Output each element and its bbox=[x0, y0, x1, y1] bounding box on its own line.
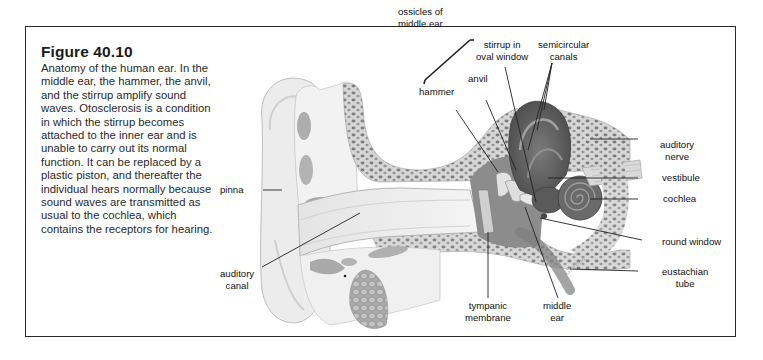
label-line: canal bbox=[220, 280, 254, 292]
label-anvil: anvil bbox=[468, 73, 488, 85]
label-eustachian-tube: eustachian tube bbox=[662, 266, 708, 289]
label-line: ossicles of bbox=[398, 6, 443, 18]
label-line: stirrup in bbox=[476, 39, 528, 51]
label-semicircular-canals: semicircular canals bbox=[538, 39, 589, 62]
label-line: oval window bbox=[476, 51, 528, 63]
label-auditory-nerve: auditory nerve bbox=[660, 139, 694, 162]
label-auditory-canal: auditory canal bbox=[220, 268, 254, 291]
label-pinna: pinna bbox=[220, 184, 243, 196]
label-round-window: round window bbox=[662, 236, 721, 248]
label-vestibule: vestibule bbox=[662, 172, 700, 184]
ossicles-bracket-line bbox=[425, 40, 470, 80]
label-line: ear bbox=[543, 312, 571, 324]
label-hammer: hammer bbox=[419, 86, 454, 98]
label-line: canals bbox=[538, 51, 589, 63]
label-line: membrane bbox=[465, 312, 511, 324]
label-line: tube bbox=[662, 278, 708, 290]
label-line: nerve bbox=[660, 151, 694, 163]
label-ossicles-of-middle-ear: ossicles of middle ear bbox=[398, 6, 443, 29]
lower-tissue bbox=[300, 244, 440, 329]
label-line: tympanic bbox=[465, 300, 511, 312]
label-line: eustachian bbox=[662, 266, 708, 278]
label-line: semicircular bbox=[538, 39, 589, 51]
label-stirrup-in-oval-window: stirrup in oval window bbox=[476, 39, 528, 62]
label-tympanic-membrane: tympanic membrane bbox=[465, 300, 511, 323]
label-line: auditory bbox=[220, 268, 254, 280]
label-cochlea: cochlea bbox=[663, 193, 696, 205]
label-line: middle ear bbox=[398, 18, 443, 30]
ear-anatomy-illustration: Gierhan bbox=[0, 0, 763, 360]
label-line: auditory bbox=[660, 139, 694, 151]
label-line: middle bbox=[543, 300, 571, 312]
label-middle-ear: middle ear bbox=[543, 300, 571, 323]
